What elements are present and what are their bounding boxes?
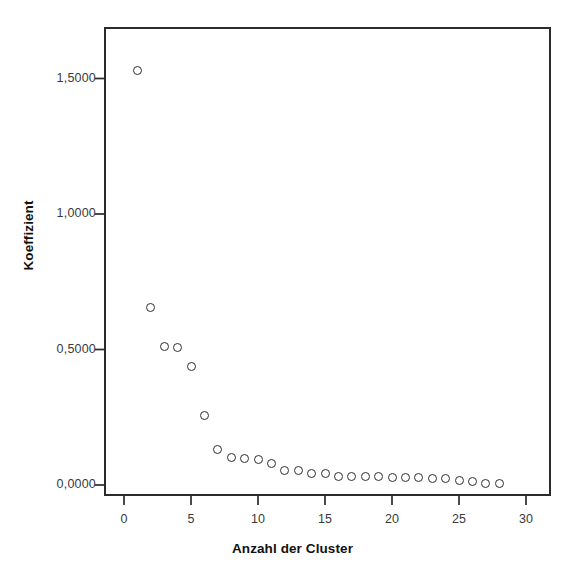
x-tick-label: 10: [238, 512, 278, 526]
x-tick-label: 25: [439, 512, 479, 526]
data-point-marker: [160, 342, 169, 351]
x-axis-title: Anzahl der Cluster: [0, 541, 585, 556]
plot-area-frame: [104, 27, 551, 496]
data-point-marker: [401, 473, 410, 482]
data-point-marker: [307, 469, 316, 478]
data-point-marker: [321, 469, 330, 478]
y-tick-label: 1,5000: [57, 71, 96, 85]
data-point-marker: [428, 474, 437, 483]
x-axis-tick-marks: [124, 496, 526, 505]
x-tick-label: 20: [372, 512, 412, 526]
y-axis-tick-marks: [95, 79, 104, 486]
x-tick-label: 5: [171, 512, 211, 526]
x-tick-label: 15: [305, 512, 345, 526]
data-point-marker: [388, 473, 397, 482]
data-point-marker: [213, 445, 222, 454]
y-axis-title: Koeffizient: [21, 186, 36, 286]
data-point-marker: [254, 455, 263, 464]
data-point-marker: [481, 479, 490, 488]
y-axis-tick-label-group: 0,00000,50001,00001,5000: [0, 0, 96, 580]
data-point-marker: [173, 343, 182, 352]
chart-page: 0,00000,50001,00001,5000 Koeffizient Anz…: [0, 0, 585, 580]
data-point-marker: [187, 362, 196, 371]
y-tick-label: 1,0000: [57, 206, 96, 220]
x-tick-label: 0: [104, 512, 144, 526]
data-point-marker: [334, 472, 343, 481]
data-point-marker: [361, 472, 370, 481]
data-point-marker: [133, 66, 142, 75]
x-tick-label: 30: [506, 512, 546, 526]
data-point-marker: [455, 476, 464, 485]
y-tick-label: 0,5000: [57, 342, 96, 356]
y-tick-label: 0,0000: [57, 477, 96, 491]
